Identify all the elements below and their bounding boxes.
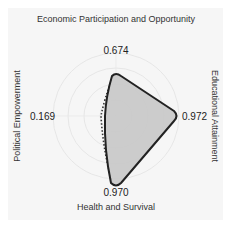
- axis-label-top: Economic Participation and Opportunity: [37, 14, 196, 24]
- radar-chart: Economic Participation and Opportunity H…: [0, 0, 231, 228]
- value-label-right: 0.972: [182, 111, 207, 122]
- axis-label-bottom: Health and Survival: [77, 202, 155, 212]
- axis-label-left: Political Empowerment: [12, 70, 22, 162]
- value-label-left: 0.169: [30, 111, 55, 122]
- value-label-top: 0.674: [103, 45, 128, 56]
- score-series-area: [105, 74, 177, 186]
- value-label-bottom: 0.970: [103, 187, 128, 198]
- axis-label-right: Educational Attainment: [210, 70, 220, 163]
